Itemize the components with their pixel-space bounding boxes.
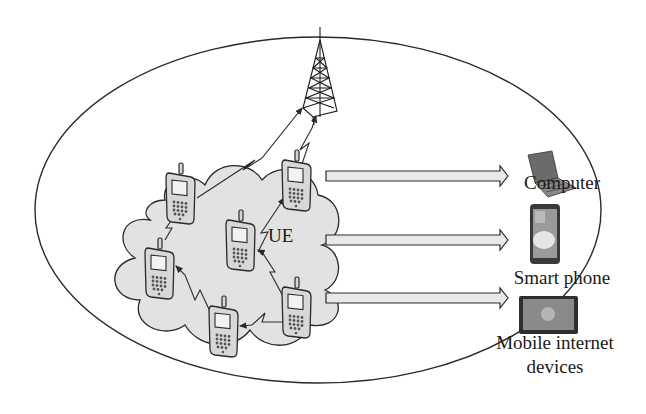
base-station-tower-icon [303, 27, 337, 125]
ue-handset-icon-1 [166, 163, 195, 224]
devices-label: devices [470, 356, 640, 378]
arrow-to-computer [326, 166, 508, 186]
arrow-to-mid [326, 288, 508, 308]
mobile-internet-label: Mobile internet [470, 332, 640, 354]
block-arrows [326, 166, 508, 308]
smartphone-icon [530, 204, 560, 264]
tablet-icon [519, 296, 578, 334]
computer-label: Computer [502, 172, 622, 194]
ue-handset-icon-4 [282, 150, 311, 211]
arrow-to-smartphone [326, 230, 508, 250]
smart-phone-label: Smart phone [487, 267, 637, 289]
ue-label: UE [268, 225, 293, 247]
